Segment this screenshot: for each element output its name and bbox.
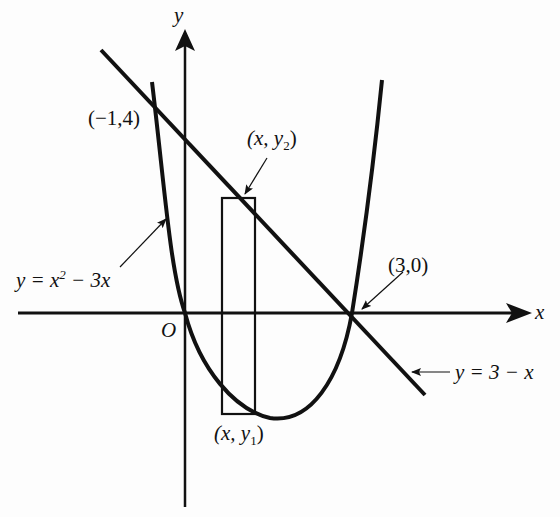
- pointer-right-intersection: [362, 272, 403, 309]
- x-axis-label: x: [535, 302, 544, 323]
- top-point-prefix: (x, y: [247, 126, 283, 150]
- parabola-eq-suffix: − 3x: [66, 268, 111, 292]
- bottom-point-suffix: ): [257, 421, 264, 445]
- top-point-suffix: ): [290, 126, 297, 150]
- bottom-point-label: (x, y1): [214, 423, 264, 447]
- line-equation-label: y = 3 − x: [455, 362, 533, 383]
- origin-label: O: [161, 320, 176, 341]
- y-axis: [175, 29, 195, 507]
- pointer-parabola: [120, 219, 166, 267]
- pointer-top-point: [245, 158, 267, 194]
- parabola-eq-prefix: y = x: [16, 268, 59, 292]
- right-intersection-label: (3,0): [388, 255, 428, 276]
- parabola-equation-label: y = x2 − 3x: [16, 268, 110, 291]
- top-point-label: (x, y2): [247, 128, 297, 152]
- x-axis: [18, 303, 532, 323]
- left-intersection-label: (−1,4): [88, 108, 140, 129]
- diagram-canvas: y x O (−1,4) (3,0) (x, y2) (x, y1) y = x…: [0, 0, 560, 517]
- bottom-point-prefix: (x, y: [214, 421, 250, 445]
- graph-svg: [0, 0, 560, 517]
- line-curve: [101, 50, 425, 395]
- strip-rectangle: [222, 198, 255, 414]
- y-axis-label: y: [174, 5, 183, 26]
